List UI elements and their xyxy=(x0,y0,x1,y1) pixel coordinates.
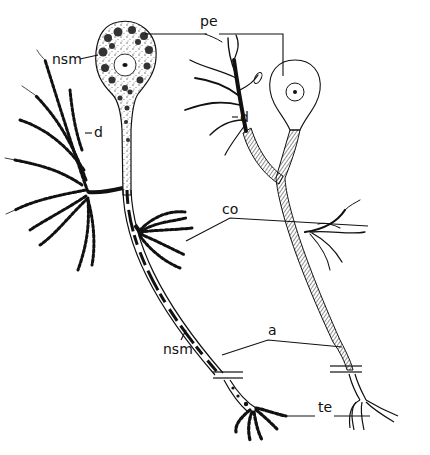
left-neuron xyxy=(5,21,286,440)
label-d-right: d xyxy=(240,109,249,125)
left-nucleolus xyxy=(122,63,127,67)
label-pe: pe xyxy=(200,13,218,29)
neuron-diagram: pe nsm d d co nsm a te xyxy=(0,0,430,455)
label-d-left: d xyxy=(94,124,103,140)
right-dendrite-trunk xyxy=(243,128,283,184)
label-a: a xyxy=(268,322,277,338)
right-terminal xyxy=(349,400,398,430)
leader-a xyxy=(222,340,342,355)
right-collateral xyxy=(305,200,365,270)
right-axon xyxy=(276,130,353,370)
leader-co xyxy=(186,218,368,241)
label-nsm-top: nsm xyxy=(52,51,82,67)
left-dendrites xyxy=(15,60,94,270)
left-axon-break xyxy=(213,372,243,378)
right-nucleolus xyxy=(293,90,297,94)
label-te: te xyxy=(318,399,332,415)
label-co: co xyxy=(222,201,238,217)
label-nsm-bottom: nsm xyxy=(163,341,193,357)
left-terminal xyxy=(236,408,286,440)
left-dendrite-trunk xyxy=(88,188,123,192)
